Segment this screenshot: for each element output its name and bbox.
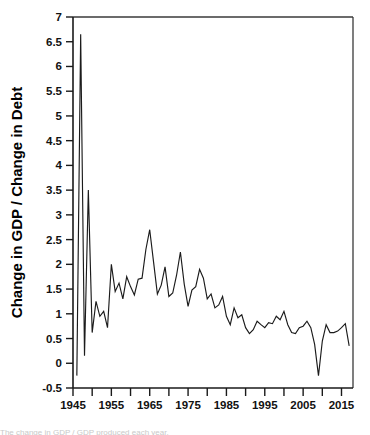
y-axis-tick-labels: -0.500.511.522.533.544.555.566.57 (42, 11, 62, 394)
y-tick-label: 2.5 (46, 234, 63, 246)
y-tick-label: 5.5 (46, 85, 63, 97)
x-axis-ticks (73, 388, 341, 396)
x-tick-label: 1975 (175, 399, 201, 411)
y-tick-label: 4 (56, 159, 63, 171)
line-chart: -0.500.511.522.533.544.555.566.57 194519… (0, 0, 370, 435)
y-tick-label: 1 (56, 308, 63, 320)
x-axis-tick-labels: 19451955196519751985199520052015 (60, 399, 355, 411)
y-tick-label: 5 (56, 110, 63, 122)
y-tick-label: -0.5 (42, 382, 62, 394)
chart-figure: -0.500.511.522.533.544.555.566.57 194519… (0, 0, 370, 435)
y-tick-label: 0.5 (46, 333, 63, 345)
y-tick-label: 3.5 (46, 184, 63, 196)
x-tick-label: 1995 (252, 399, 278, 411)
y-tick-label: 4.5 (46, 135, 63, 147)
y-tick-label: 7 (56, 11, 62, 23)
x-tick-label: 1985 (214, 399, 240, 411)
y-tick-label: 2 (56, 258, 62, 270)
y-tick-label: 6.5 (46, 36, 63, 48)
x-tick-label: 1955 (99, 399, 125, 411)
x-tick-label: 1945 (60, 399, 86, 411)
y-tick-label: 6 (56, 60, 62, 72)
y-axis-ticks (66, 17, 73, 388)
y-tick-label: 1.5 (46, 283, 63, 295)
x-tick-label: 2005 (290, 399, 316, 411)
x-tick-label: 1965 (137, 399, 163, 411)
x-tick-label: 2015 (329, 399, 355, 411)
y-axis-title: Change in GDP / Change in Debt (8, 87, 25, 318)
y-tick-label: 3 (56, 209, 62, 221)
figure-caption: The change in GDP / GDP produced each ye… (0, 428, 370, 435)
y-tick-label: 0 (56, 357, 62, 369)
data-series-line (77, 34, 349, 375)
